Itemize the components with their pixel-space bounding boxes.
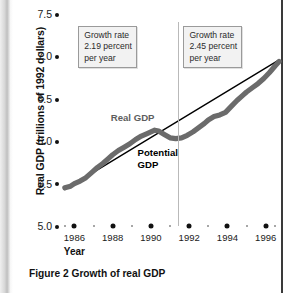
series-label-real-gdp: Real GDP <box>111 112 155 124</box>
page-gutter-left <box>0 0 13 293</box>
x-dot-1992 <box>187 224 192 229</box>
x-tick-1988: 1988 <box>102 232 123 243</box>
y-tick-7.0: 7.0 <box>37 50 61 62</box>
x-dot-1988 <box>110 224 115 229</box>
annotation-growth-rate-left: Growth rate 2.19 percent per year <box>78 26 137 68</box>
x-dot-minor-1991 <box>169 225 171 227</box>
y-tick-5.5: 5.5 <box>37 178 61 190</box>
x-tick-1996: 1996 <box>255 232 276 243</box>
x-tick-1994: 1994 <box>217 232 238 243</box>
annotation-growth-rate-right: Growth rate 2.45 percent per year <box>183 26 242 68</box>
figure-panel: Real GDP (trillions of 1992 dollars) 5.0… <box>13 0 281 293</box>
x-dot-1994 <box>225 224 230 229</box>
period-divider-line <box>178 22 179 226</box>
y-tick-6.5: 6.5 <box>37 93 61 105</box>
series-label-potential-gdp: Potential GDP <box>138 147 179 171</box>
page-margin-right <box>283 0 299 293</box>
plot-area: 5.05.56.06.57.07.5 198619881990199219941… <box>61 14 281 226</box>
x-dot-minor-1996.5 <box>274 225 276 227</box>
x-dot-1990 <box>148 224 153 229</box>
x-dot-minor-1995 <box>246 225 248 227</box>
x-dot-minor-1989 <box>131 225 133 227</box>
x-axis-title: Year <box>64 246 85 257</box>
x-dot-minor-1985.5 <box>64 225 66 227</box>
y-axis-title: Real GDP (trillions of 1992 dollars) <box>34 21 46 201</box>
y-tick-5.0: 5.0 <box>37 220 61 232</box>
figure-caption: Figure 2 Growth of real GDP <box>29 268 165 279</box>
x-dot-1996 <box>263 224 268 229</box>
x-dot-minor-1987 <box>93 225 95 227</box>
x-tick-1990: 1990 <box>140 232 161 243</box>
x-dot-minor-1993 <box>207 225 209 227</box>
x-dot-1986 <box>72 224 77 229</box>
x-tick-1986: 1986 <box>64 232 85 243</box>
x-tick-1992: 1992 <box>179 232 200 243</box>
y-tick-7.5: 7.5 <box>37 8 61 20</box>
y-tick-6.0: 6.0 <box>37 135 61 147</box>
